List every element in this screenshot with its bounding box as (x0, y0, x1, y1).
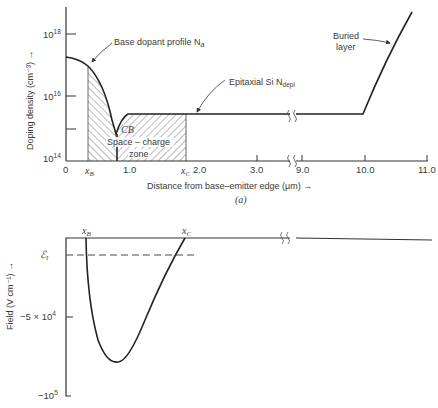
ytick-1e16: 1016 (43, 90, 61, 102)
base-profile-arrow (92, 43, 112, 62)
y-axis-label-a: Doping density (cm⁻³) → (25, 50, 35, 150)
xtick-1: 1.0 (123, 164, 136, 175)
cb-label: CB (121, 124, 134, 135)
caption-a: (a) (235, 194, 247, 206)
marker-xc: xC (181, 225, 191, 238)
xtick-xc: xC (180, 165, 190, 178)
xtick-0: 0 (63, 164, 68, 175)
figure-b: Field (V cm⁻¹) → −5 × 104 −105 ℰI xB xC (5, 225, 432, 401)
axes-b (66, 238, 290, 396)
figure-a: Doping density (cm⁻³) → 1018 1016 1014 0… (25, 7, 436, 206)
xtick-xb: xB (84, 165, 94, 178)
threshold-label: ℰI (40, 249, 49, 261)
space-charge-label-2: zone (129, 149, 149, 159)
xtick-10: 10.0 (356, 164, 375, 175)
marker-xb: xB (81, 225, 91, 238)
xtick-2: 2.0 (193, 164, 206, 175)
xtick-9: 9.0 (296, 164, 309, 175)
curve-break-icon (288, 110, 297, 122)
xtick-3: 3.0 (250, 164, 263, 175)
space-charge-label-1: Space – charge (107, 137, 170, 147)
figure-canvas: Doping density (cm⁻³) → 1018 1016 1014 0… (0, 0, 438, 408)
ytick-neg5e4: −5 × 104 (20, 310, 56, 322)
buried-layer-arrow (363, 39, 390, 43)
ytick-1e18: 1018 (43, 28, 61, 40)
buried-layer-label-2: layer (336, 42, 356, 52)
ytick-1e14: 1014 (43, 152, 61, 164)
x-axis-label-a: Distance from base–emitter edge (μm) → (147, 181, 312, 191)
xtick-11: 11.0 (418, 164, 436, 175)
epitaxial-arrow (197, 80, 225, 112)
zero-line-b-right (296, 238, 432, 240)
y-axis-label-b: Field (V cm⁻¹) → (5, 262, 15, 330)
epitaxial-label: Epitaxial Si Ndepi (229, 77, 295, 89)
buried-layer-label-1: Buried (333, 31, 359, 41)
ytick-neg1e5: −105 (38, 389, 58, 401)
field-curve (86, 238, 185, 362)
base-profile-label: Base dopant profile Na (114, 37, 205, 48)
epitaxial-buried-curve (296, 12, 412, 114)
